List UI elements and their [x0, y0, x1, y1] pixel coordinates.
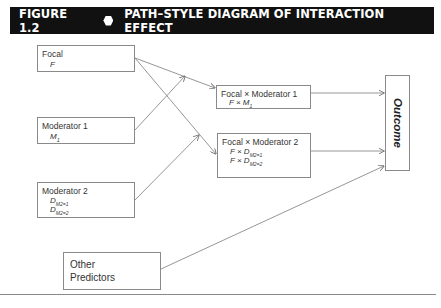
node-moderator-1: Moderator 1 M1 — [37, 117, 135, 144]
edge-other-outcome — [161, 166, 384, 269]
node-focal-x-moderator-1: Focal × Moderator 1 F × M1 — [216, 85, 311, 109]
node-label: Focal — [42, 49, 63, 59]
node-focal-x-moderator-2: Focal × Moderator 2 F × DM2=1 F × DM2=2 — [217, 133, 311, 178]
edge-focal-fxm1 — [135, 58, 215, 88]
node-label: Moderator 1 — [42, 121, 88, 131]
node-var: F — [50, 60, 55, 69]
node-var: F × DM2=2 — [230, 156, 262, 167]
node-outcome: Outcome — [385, 75, 410, 171]
node-moderator-2: Moderator 2 DM2=1 DM2=2 — [37, 182, 135, 218]
node-label: Other Predictors — [70, 258, 140, 284]
edge-focal-fxm2 — [135, 58, 216, 154]
node-label: Moderator 2 — [42, 186, 88, 196]
node-label: Focal × Moderator 2 — [222, 137, 298, 147]
bottom-rule — [0, 294, 436, 295]
node-var: M1 — [50, 132, 60, 143]
node-var: DM2=2 — [50, 205, 68, 216]
node-label: Outcome — [392, 98, 404, 148]
node-var: F × M1 — [229, 98, 252, 109]
edge-mod1-fxm1 — [135, 76, 185, 130]
node-focal: Focal F — [37, 45, 135, 72]
node-other-predictors: Other Predictors — [63, 252, 161, 290]
edge-mod2-fxm2 — [135, 135, 199, 200]
